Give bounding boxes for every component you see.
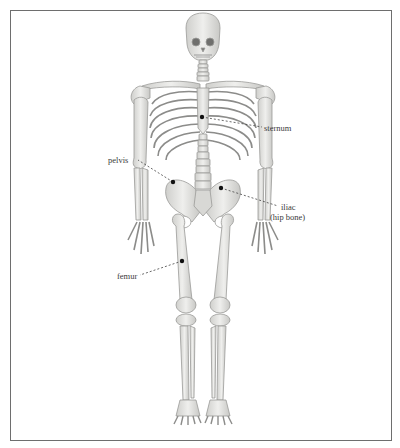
- femur-bones: [172, 214, 233, 300]
- femur-leader: [140, 261, 182, 275]
- pelvis-dot: [171, 180, 175, 184]
- iliac-sublabel: (hip bone): [270, 212, 305, 222]
- knees: [176, 297, 230, 326]
- skull: [186, 13, 220, 60]
- cervical-spine: [197, 60, 209, 81]
- skeleton-illustration: [0, 0, 400, 448]
- femur-label: femur: [117, 271, 137, 281]
- iliac-dot: [219, 186, 223, 190]
- sternum-bone: [197, 88, 209, 134]
- hands: [128, 222, 278, 254]
- iliac-label: iliac: [281, 202, 296, 212]
- feet: [176, 400, 230, 416]
- sternum-dot: [200, 115, 204, 119]
- pelvis-label: pelvis: [108, 155, 128, 165]
- sternum-label: sternum: [264, 123, 291, 133]
- spine: [195, 134, 211, 189]
- femur-dot: [180, 259, 184, 263]
- lower-leg-bones: [180, 326, 226, 400]
